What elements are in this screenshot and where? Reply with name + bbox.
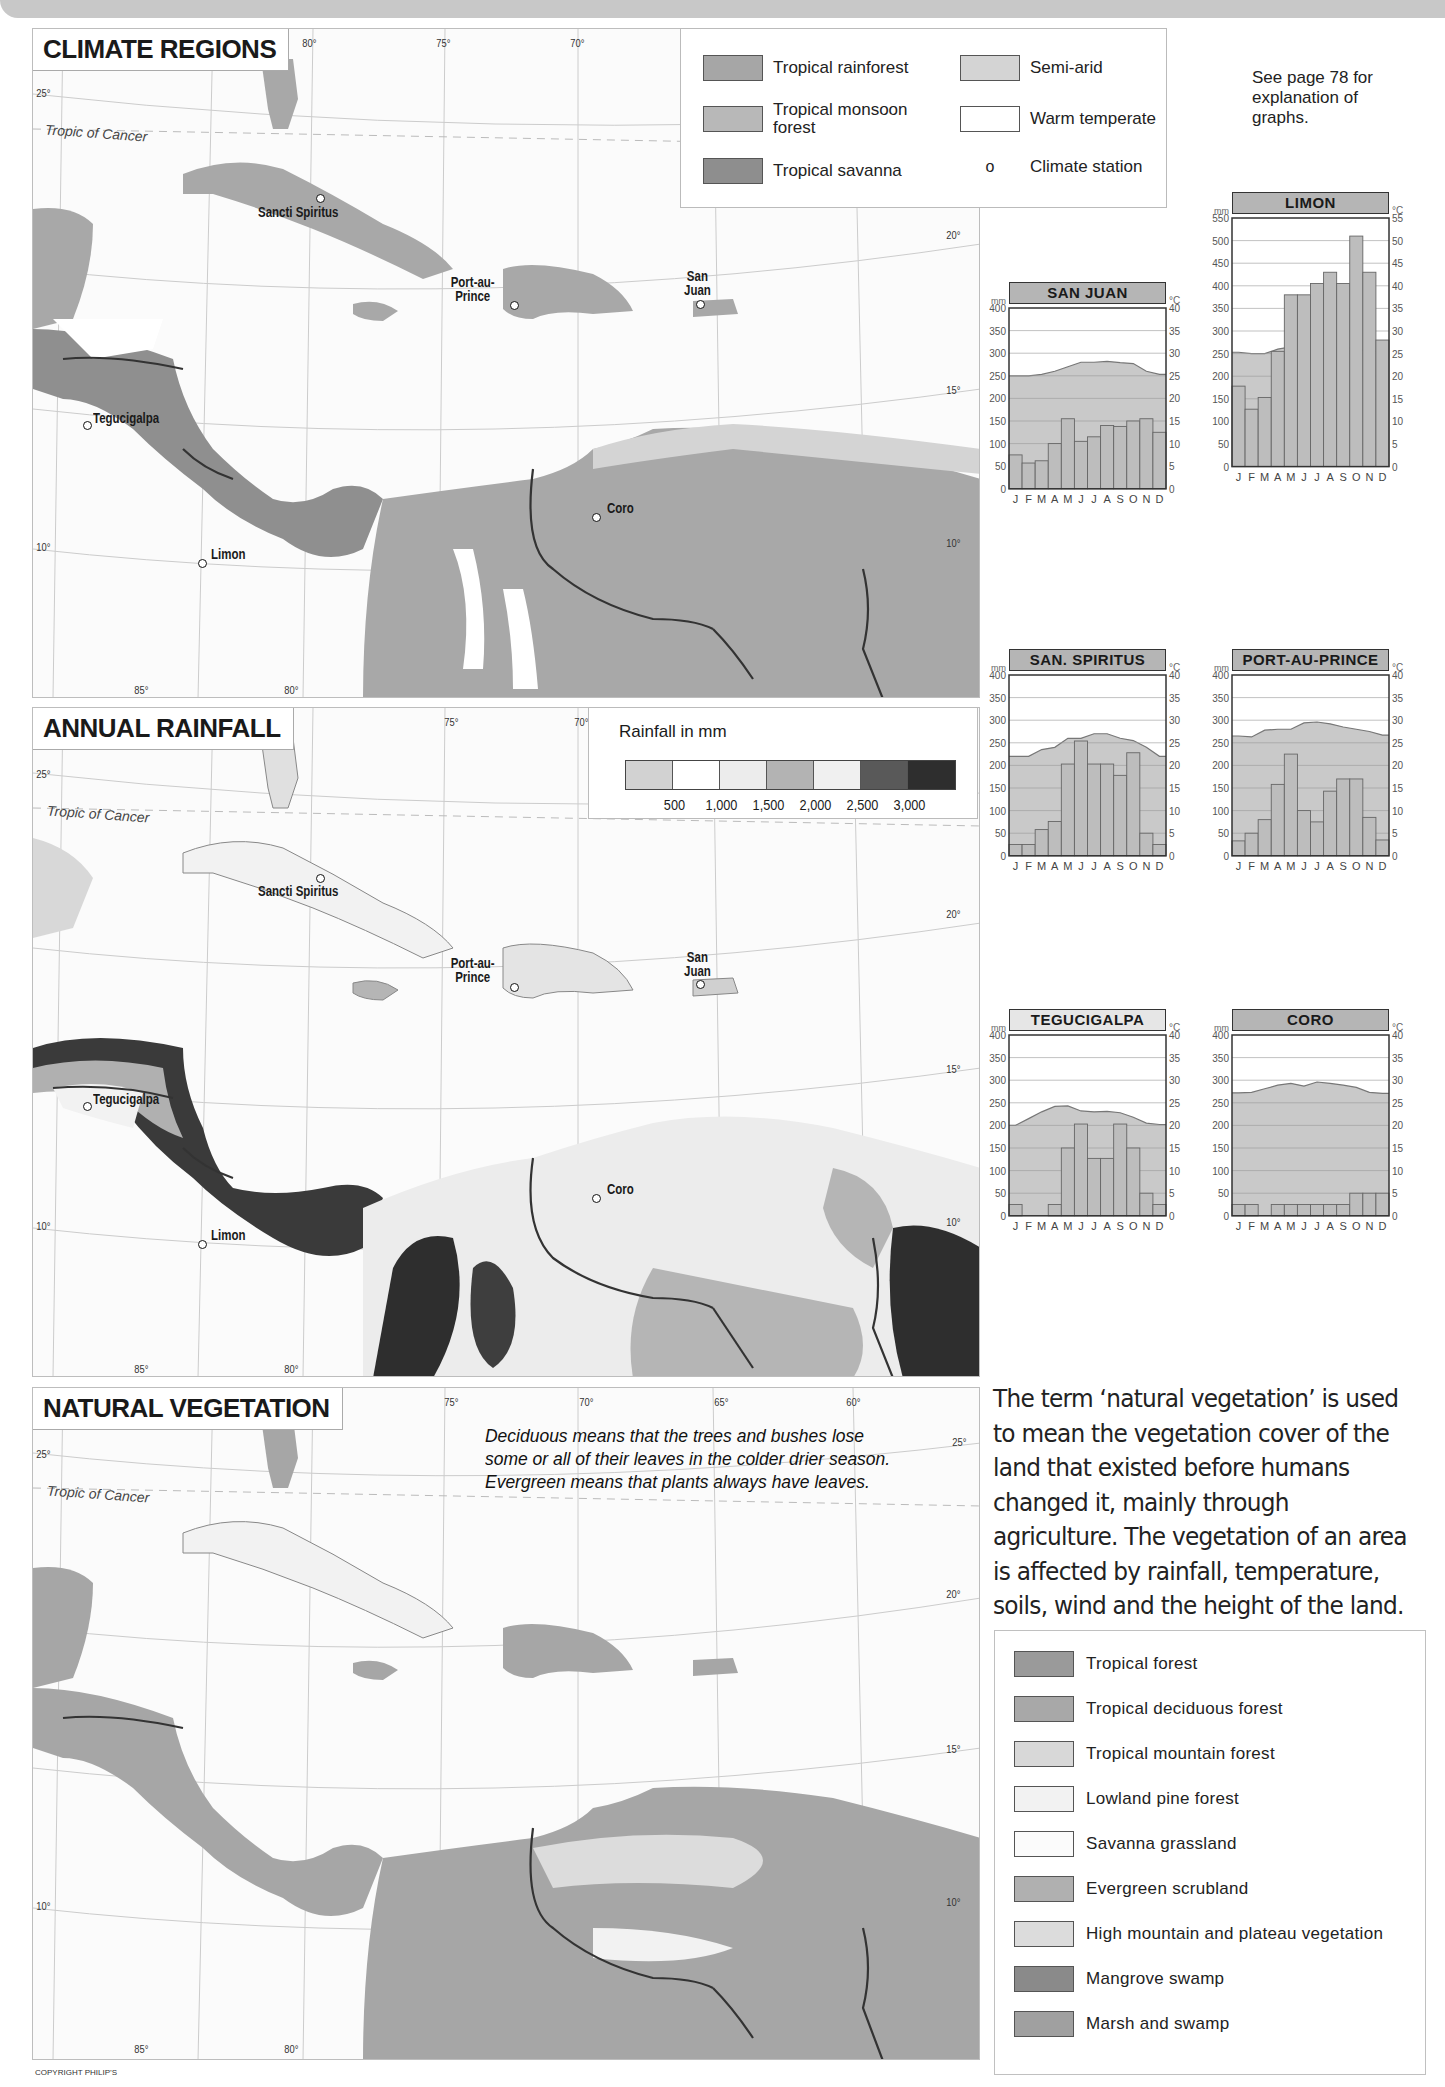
lat-label: 10° [946, 1216, 960, 1228]
svg-text:A: A [1051, 493, 1059, 505]
svg-text:20: 20 [1392, 760, 1404, 771]
svg-text:0: 0 [1392, 851, 1398, 862]
city-label-sancti-spiritus: Sancti Spiritus [258, 205, 338, 219]
station-marker [316, 194, 325, 203]
climate-graph-plot: 0050510010150152002025025300303503540040… [1198, 645, 1418, 880]
svg-text:200: 200 [989, 393, 1006, 404]
swatch [1014, 1651, 1074, 1677]
svg-text:J: J [1314, 860, 1320, 872]
svg-text:S: S [1117, 493, 1124, 505]
svg-text:D: D [1378, 1220, 1386, 1232]
legend-item-climate-station: o Climate station [960, 158, 1142, 176]
station-symbol-icon: o [960, 158, 1020, 176]
copyright-notice: COPYRIGHT PHILIP’S [35, 2068, 117, 2077]
swatch [960, 106, 1020, 132]
svg-text:300: 300 [1212, 326, 1229, 337]
lon-label: 80° [284, 2043, 298, 2055]
svg-text:J: J [1091, 860, 1097, 872]
lon-label: 70° [579, 1396, 593, 1408]
lon-label: 65° [714, 1396, 728, 1408]
legend-item-tropical-rainforest: Tropical rainforest [703, 55, 908, 81]
svg-text:0: 0 [1169, 1211, 1175, 1222]
svg-text:F: F [1248, 860, 1255, 872]
swatch [703, 158, 763, 184]
svg-text:250: 250 [1212, 349, 1229, 360]
svg-text:450: 450 [1212, 258, 1229, 269]
rain-bin [908, 761, 955, 789]
svg-text:A: A [1326, 860, 1334, 872]
svg-text:M: M [1286, 1220, 1295, 1232]
swatch [1014, 2011, 1074, 2037]
lat-label: 10° [36, 541, 50, 553]
svg-text:10: 10 [1392, 806, 1404, 817]
svg-text:100: 100 [989, 1166, 1006, 1177]
lon-label: 75° [444, 1396, 458, 1408]
svg-text:100: 100 [1212, 1166, 1229, 1177]
svg-text:15: 15 [1169, 783, 1181, 794]
rainfall-scale-labels: 500 1,000 1,500 2,000 2,500 3,000 [651, 796, 933, 813]
svg-text:A: A [1051, 1220, 1059, 1232]
svg-text:J: J [1091, 1220, 1097, 1232]
legend-item-warm-temperate: Warm temperate [960, 106, 1156, 132]
svg-text:20: 20 [1169, 1120, 1181, 1131]
lat-label: 25° [36, 87, 50, 99]
svg-text:5: 5 [1169, 828, 1175, 839]
svg-text:O: O [1129, 860, 1138, 872]
lat-label: 15° [946, 1743, 960, 1755]
svg-text:A: A [1103, 860, 1111, 872]
svg-text:100: 100 [989, 439, 1006, 450]
climate-map-title: CLIMATE REGIONS [33, 29, 289, 71]
svg-text:0: 0 [1223, 851, 1229, 862]
svg-text:500: 500 [1212, 236, 1229, 247]
svg-text:N: N [1142, 493, 1150, 505]
swatch [703, 106, 763, 132]
svg-text:D: D [1155, 860, 1163, 872]
lon-label: 80° [302, 37, 316, 49]
vegetation-legend: Tropical forest Tropical deciduous fores… [994, 1630, 1426, 2075]
svg-text:200: 200 [1212, 1120, 1229, 1131]
svg-text:25: 25 [1169, 371, 1181, 382]
legend-item-semi-arid: Semi-arid [960, 55, 1103, 81]
swatch [1014, 1876, 1074, 1902]
legend-item-tropical-mountain-forest: Tropical mountain forest [1014, 1741, 1275, 1767]
climate-graph-sancti-spiritus: SAN. SPIRITUS005051001015015200202502530… [975, 645, 1195, 945]
station-marker [198, 559, 207, 568]
city-label-coro: Coro [607, 501, 634, 515]
station-marker [83, 421, 92, 430]
svg-text:J: J [1301, 860, 1307, 872]
svg-text:50: 50 [995, 828, 1007, 839]
climate-legend: Tropical rainforest Tropical monsoon for… [680, 28, 1167, 208]
rainfall-color-scale [625, 760, 956, 790]
svg-text:J: J [1013, 860, 1019, 872]
svg-text:50: 50 [1218, 828, 1230, 839]
svg-text:mm: mm [1214, 1023, 1229, 1033]
lat-label: 20° [946, 908, 960, 920]
lat-label: 25° [952, 1436, 966, 1448]
climate-graph-plot: 0050510010150152002025025300303503540040… [975, 1005, 1195, 1240]
station-marker [198, 1240, 207, 1249]
city-label-sancti-spiritus: Sancti Spiritus [258, 884, 338, 898]
climate-graph-plot: 0050510010150152002025025300303503540040… [975, 645, 1195, 880]
legend-item-mangrove-swamp: Mangrove swamp [1014, 1966, 1224, 1992]
city-label-limon: Limon [211, 547, 245, 561]
lon-label: 85° [134, 684, 148, 696]
svg-text:F: F [1248, 471, 1255, 483]
svg-text:J: J [1236, 1220, 1242, 1232]
svg-text:350: 350 [1212, 693, 1229, 704]
lat-label: 25° [36, 768, 50, 780]
legend-item-high-mountain-plateau: High mountain and plateau vegetation [1014, 1921, 1383, 1947]
svg-text:350: 350 [989, 326, 1006, 337]
city-label-port-au-prince: Port-au-Prince [444, 275, 501, 303]
svg-text:5: 5 [1392, 828, 1398, 839]
svg-text:350: 350 [989, 1053, 1006, 1064]
svg-text:5: 5 [1392, 439, 1398, 450]
svg-text:J: J [1013, 493, 1019, 505]
svg-text:25: 25 [1392, 349, 1404, 360]
svg-text:100: 100 [1212, 806, 1229, 817]
svg-text:A: A [1103, 493, 1111, 505]
svg-text:10: 10 [1392, 1166, 1404, 1177]
swatch [1014, 1831, 1074, 1857]
svg-text:15: 15 [1169, 416, 1181, 427]
svg-text:250: 250 [989, 1098, 1006, 1109]
svg-text:25: 25 [1392, 738, 1404, 749]
